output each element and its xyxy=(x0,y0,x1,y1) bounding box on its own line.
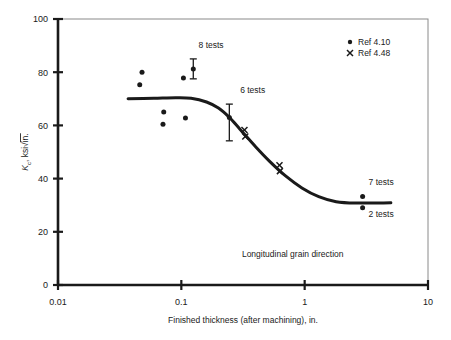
figure-container: 0204060801000.010.1110Finished thickness… xyxy=(0,0,451,340)
fracture-toughness-chart: 0204060801000.010.1110Finished thickness… xyxy=(0,0,451,340)
chart-annotation: 6 tests xyxy=(240,85,265,95)
y-tick-label: 80 xyxy=(38,68,48,78)
legend-label: Ref 4.48 xyxy=(358,48,390,58)
y-axis-title-text: Kc, ksi√in. xyxy=(20,133,32,170)
data-point-dot xyxy=(191,67,196,72)
data-point-dot xyxy=(227,115,232,120)
x-tick-label: 0.1 xyxy=(175,297,188,307)
chart-canvas: 0204060801000.010.1110Finished thickness… xyxy=(0,0,451,340)
data-point-dot xyxy=(183,115,188,120)
y-tick-label: 100 xyxy=(33,14,48,24)
trend-curve xyxy=(128,98,391,203)
y-tick-label: 40 xyxy=(38,174,48,184)
legend-label: Ref 4.10 xyxy=(358,37,390,47)
data-point-dot xyxy=(160,122,165,127)
data-point-dot xyxy=(181,76,186,81)
data-point-dot xyxy=(140,70,145,75)
data-point-dot xyxy=(161,110,166,115)
chart-annotation: 8 tests xyxy=(199,40,224,50)
data-point-dot xyxy=(137,82,142,87)
x-tick-label: 10 xyxy=(423,297,433,307)
chart-annotation: Longitudinal grain direction xyxy=(242,249,344,259)
chart-annotation: 2 tests xyxy=(369,209,394,219)
x-tick-label: 1 xyxy=(302,297,307,307)
plot-frame xyxy=(58,19,428,285)
y-tick-label: 60 xyxy=(38,121,48,131)
data-point-dot xyxy=(360,205,365,210)
y-tick-label: 0 xyxy=(43,280,48,290)
legend-marker-dot xyxy=(348,40,352,44)
x-tick-label: 0.01 xyxy=(49,297,67,307)
data-point-dot xyxy=(360,194,365,199)
x-axis-title: Finished thickness (after machining), in… xyxy=(168,315,318,325)
y-tick-label: 20 xyxy=(38,227,48,237)
chart-annotation: 7 tests xyxy=(369,177,394,187)
y-axis-title: Kc, ksi√in. xyxy=(20,133,32,170)
